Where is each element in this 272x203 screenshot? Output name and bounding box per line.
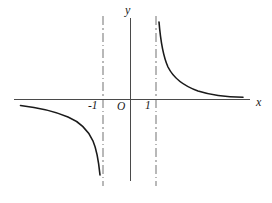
x-tick-label-one: 1 — [145, 100, 151, 112]
x-tick-label-neg-one: -1 — [88, 100, 98, 112]
plot-canvas — [0, 0, 272, 203]
y-axis-label: y — [125, 4, 130, 16]
curve-right-branch — [159, 22, 243, 97]
x-axis-label: x — [256, 96, 261, 108]
curve-left-branch — [21, 106, 101, 176]
function-graph-figure: y x O -1 1 — [0, 0, 272, 203]
origin-label: O — [117, 101, 125, 113]
